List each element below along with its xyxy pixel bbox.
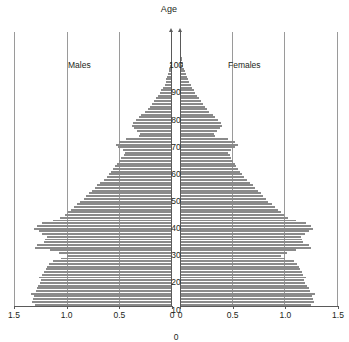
bar-males-age-6 [37,287,172,289]
bar-females-age-57 [180,149,231,151]
bar-males-age-45 [100,182,172,184]
bar-females-age-59 [180,144,238,146]
axis-arrow-cap-females [178,28,182,32]
bar-males-age-30 [42,222,172,224]
x-tick-label-males-1.5: 1.5 [1,310,27,320]
x-tick-mark-females-1.5 [338,306,339,309]
bar-females-age-76 [180,97,199,99]
bar-males-age-46 [104,179,172,181]
males-plot-panel [14,32,172,306]
bar-males-age-44 [97,184,172,186]
bar-males-age-26 [42,233,172,235]
bar-females-age-33 [180,214,284,216]
bar-females-age-23 [180,241,303,243]
bar-males-age-50 [113,168,172,170]
x-tick-mark-females-0.5 [233,306,234,309]
bar-females-age-13 [180,268,300,270]
bar-males-age-43 [95,187,172,189]
bar-females-age-37 [180,203,272,205]
bar-females-age-24 [180,239,302,241]
bar-females-age-7 [180,285,307,287]
bar-males-age-31 [53,220,172,222]
chart-title: Age [0,4,338,14]
age-tick-label-60: 60 [165,169,187,179]
bar-females-age-28 [180,228,313,230]
age-tick-label-30: 30 [165,250,187,260]
bar-females-age-5 [180,290,310,292]
bar-males-age-65 [134,127,172,129]
bar-females-age-30 [180,222,306,224]
bar-males-age-24 [45,239,172,241]
bar-males-age-51 [115,165,172,167]
bar-males-age-35 [71,209,172,211]
x-tick-label-females-1.0: 1.0 [272,310,298,320]
bar-females-age-4 [180,293,315,295]
bar-males-age-9 [41,279,172,281]
bar-males-age-48 [109,173,172,175]
bar-males-age-39 [84,198,172,200]
bar-males-age-42 [92,190,172,192]
bar-females-age-34 [180,211,281,213]
bar-females-age-49 [180,171,240,173]
bar-females-age-18 [180,255,281,257]
bar-females-age-72 [180,108,207,110]
bar-females-age-36 [180,206,275,208]
bar-females-age-83 [180,78,188,80]
age-tick-label-70: 70 [165,142,187,152]
bar-females-age-47 [180,176,244,178]
bar-females-age-29 [180,225,311,227]
age-tick-label-40: 40 [165,223,187,233]
bar-males-age-64 [137,130,172,132]
bar-males-age-75 [154,100,172,102]
bar-females-age-15 [180,263,297,265]
bar-females-age-2 [180,298,313,300]
bar-males-age-2 [33,298,172,300]
bar-females-age-31 [180,220,296,222]
bar-males-age-36 [74,206,172,208]
axis-arrow-cap-males [169,28,173,32]
bar-males-age-4 [31,293,172,295]
bar-females-age-3 [180,295,312,297]
bar-males-age-59 [116,144,172,146]
bar-males-age-8 [40,282,172,284]
bar-females-age-48 [180,173,242,175]
gridline-females [337,32,338,306]
bar-males-age-25 [47,236,172,238]
bar-females-age-8 [180,282,305,284]
age-tick-label-80: 80 [165,115,187,125]
bar-males-age-29 [37,225,172,227]
bar-females-age-42 [180,190,258,192]
bar-females-age-17 [180,258,285,260]
bar-males-age-12 [44,271,173,273]
bar-males-age-56 [125,152,172,154]
x-axis-line-females [180,306,338,307]
bar-males-age-28 [34,228,172,230]
bar-females-age-55 [180,154,230,156]
bar-males-age-27 [39,230,172,232]
bar-males-age-74 [152,103,172,105]
bar-males-age-5 [36,290,172,292]
bar-females-age-26 [180,233,305,235]
bar-females-age-81 [180,84,191,86]
x-tick-label-males-0.5: 0.5 [106,310,132,320]
age-tick-label-0: 0 [165,332,187,342]
age-tick-label-50: 50 [165,196,187,206]
bar-males-age-16 [53,260,172,262]
x-tick-mark-males-0 [172,306,173,309]
bar-males-age-63 [140,133,172,135]
x-tick-mark-females-1.0 [285,306,286,309]
bar-females-age-84 [180,76,187,78]
bar-females-age-46 [180,179,247,181]
bar-females-age-16 [180,260,294,262]
bar-females-age-53 [180,160,233,162]
bar-females-age-71 [180,111,209,113]
bar-females-age-39 [180,198,266,200]
females-panel-label: Females [228,60,261,70]
males-panel-label: Males [68,60,91,70]
bar-females-age-51 [180,165,236,167]
bar-males-age-47 [107,176,172,178]
bar-males-age-71 [145,111,172,113]
bar-females-age-41 [180,192,261,194]
bar-males-age-14 [47,266,172,268]
